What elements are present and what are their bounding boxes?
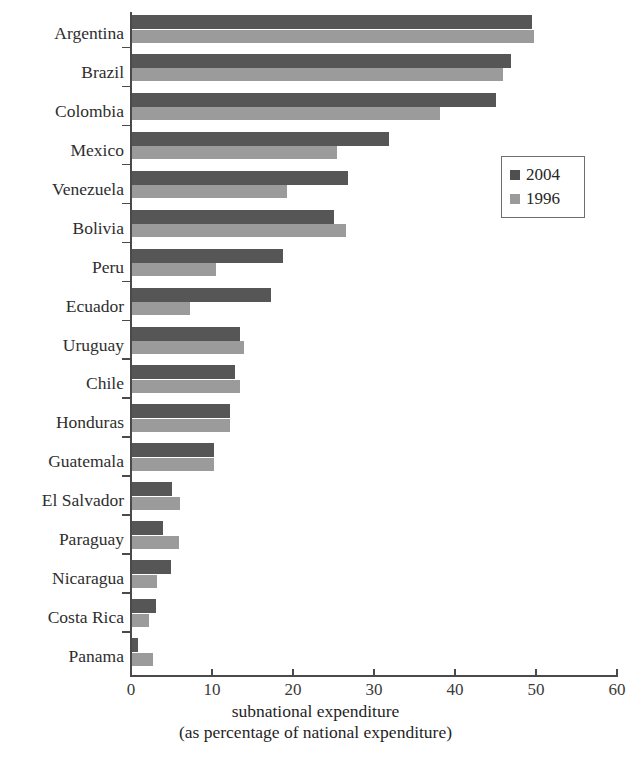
category-label-el-salvador: El Salvador bbox=[0, 490, 124, 511]
x-axis-tick-label: 60 bbox=[597, 680, 631, 700]
y-axis-tick bbox=[122, 86, 130, 88]
x-axis-tick-label: 50 bbox=[516, 680, 556, 700]
legend-label-1996: 1996 bbox=[526, 189, 560, 209]
bar-2004-panama bbox=[131, 638, 138, 652]
bar-1996-argentina bbox=[131, 30, 534, 43]
y-axis-tick bbox=[122, 358, 130, 360]
y-axis-tick bbox=[122, 125, 130, 127]
x-axis-tick bbox=[535, 669, 537, 676]
category-label-bolivia: Bolivia bbox=[0, 218, 124, 239]
bar-chart: ArgentinaBrazilColombiaMexicoVenezuelaBo… bbox=[0, 0, 631, 774]
bar-2004-chile bbox=[131, 365, 235, 379]
category-label-panama: Panama bbox=[0, 646, 124, 667]
x-axis-title: subnational expenditure (as percentage o… bbox=[0, 701, 631, 742]
x-axis-tick bbox=[130, 669, 132, 676]
y-axis-tick bbox=[122, 553, 130, 555]
y-axis-tick bbox=[122, 164, 130, 166]
x-axis-tick bbox=[373, 669, 375, 676]
x-axis-tick bbox=[616, 669, 618, 676]
bar-1996-panama bbox=[131, 653, 153, 666]
y-axis-tick bbox=[122, 514, 130, 516]
bar-1996-costa-rica bbox=[131, 614, 149, 627]
y-axis-tick bbox=[122, 281, 130, 283]
category-label-honduras: Honduras bbox=[0, 412, 124, 433]
category-label-argentina: Argentina bbox=[0, 23, 124, 44]
x-axis-tick bbox=[454, 669, 456, 676]
category-label-uruguay: Uruguay bbox=[0, 335, 124, 356]
y-axis-tick bbox=[122, 592, 130, 594]
x-axis-title-line1: subnational expenditure bbox=[0, 701, 631, 722]
category-label-brazil: Brazil bbox=[0, 62, 124, 83]
y-axis-tick bbox=[122, 475, 130, 477]
bar-2004-mexico bbox=[131, 132, 389, 146]
x-axis-tick bbox=[292, 669, 294, 676]
x-axis-tick-label: 0 bbox=[111, 680, 151, 700]
category-label-ecuador: Ecuador bbox=[0, 296, 124, 317]
bar-1996-guatemala bbox=[131, 458, 214, 471]
bar-2004-uruguay bbox=[131, 327, 240, 341]
y-axis-tick bbox=[122, 397, 130, 399]
bar-2004-costa-rica bbox=[131, 599, 156, 613]
y-axis-tick bbox=[122, 242, 130, 244]
bar-1996-peru bbox=[131, 263, 216, 276]
bar-1996-paraguay bbox=[131, 536, 179, 549]
x-axis-tick-label: 40 bbox=[435, 680, 475, 700]
bar-2004-peru bbox=[131, 249, 283, 263]
y-axis-tick bbox=[122, 436, 130, 438]
y-axis-tick bbox=[122, 47, 130, 49]
x-axis-tick-label: 30 bbox=[354, 680, 394, 700]
bar-2004-brazil bbox=[131, 54, 511, 68]
bar-1996-uruguay bbox=[131, 341, 244, 354]
category-label-colombia: Colombia bbox=[0, 101, 124, 122]
legend-item-1996: 1996 bbox=[510, 187, 584, 211]
legend-item-2004: 2004 bbox=[510, 163, 584, 187]
bar-1996-ecuador bbox=[131, 302, 190, 315]
category-label-nicaragua: Nicaragua bbox=[0, 568, 124, 589]
bar-2004-argentina bbox=[131, 15, 532, 29]
bar-1996-honduras bbox=[131, 419, 230, 432]
bar-2004-ecuador bbox=[131, 288, 271, 302]
category-label-peru: Peru bbox=[0, 257, 124, 278]
bar-1996-mexico bbox=[131, 146, 337, 159]
bar-2004-colombia bbox=[131, 93, 496, 107]
y-axis-tick bbox=[122, 631, 130, 633]
bar-1996-colombia bbox=[131, 107, 440, 120]
category-label-guatemala: Guatemala bbox=[0, 451, 124, 472]
bar-1996-brazil bbox=[131, 68, 503, 81]
bar-1996-nicaragua bbox=[131, 575, 157, 588]
category-label-venezuela: Venezuela bbox=[0, 179, 124, 200]
legend-label-2004: 2004 bbox=[526, 165, 560, 185]
bar-1996-chile bbox=[131, 380, 240, 393]
y-axis-tick bbox=[122, 320, 130, 322]
bar-1996-venezuela bbox=[131, 185, 287, 198]
y-axis-tick bbox=[122, 203, 130, 205]
bar-2004-el-salvador bbox=[131, 482, 172, 496]
y-axis-line bbox=[130, 12, 132, 676]
category-label-chile: Chile bbox=[0, 373, 124, 394]
chart-legend: 2004 1996 bbox=[501, 156, 585, 218]
bar-2004-honduras bbox=[131, 404, 230, 418]
category-label-paraguay: Paraguay bbox=[0, 529, 124, 550]
bar-1996-el-salvador bbox=[131, 497, 180, 510]
bar-2004-bolivia bbox=[131, 210, 334, 224]
x-axis-title-line2: (as percentage of national expenditure) bbox=[0, 722, 631, 743]
x-axis-tick-label: 20 bbox=[273, 680, 313, 700]
legend-swatch-icon-2004 bbox=[510, 170, 520, 180]
x-axis-tick-label: 10 bbox=[192, 680, 232, 700]
bar-2004-guatemala bbox=[131, 443, 214, 457]
category-label-mexico: Mexico bbox=[0, 140, 124, 161]
bar-2004-paraguay bbox=[131, 521, 163, 535]
category-label-costa-rica: Costa Rica bbox=[0, 607, 124, 628]
x-axis-tick bbox=[211, 669, 213, 676]
legend-swatch-icon-1996 bbox=[510, 194, 520, 204]
bar-1996-bolivia bbox=[131, 224, 346, 237]
bar-2004-venezuela bbox=[131, 171, 348, 185]
bar-2004-nicaragua bbox=[131, 560, 171, 574]
